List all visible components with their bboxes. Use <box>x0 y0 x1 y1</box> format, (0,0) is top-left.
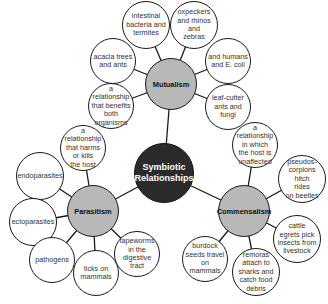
mutualism-example-node: oxpeckers and rhinos and zebras <box>170 1 218 49</box>
mutualism-node: Mutualism <box>145 58 197 110</box>
node-label: ectoparasites <box>12 218 55 226</box>
node-label: remoras attach to sharks and catch food … <box>238 251 273 293</box>
node-label: Commensalism <box>217 207 272 216</box>
parasitism-node: Parasitism <box>67 185 119 237</box>
node-label: Parasitism <box>74 207 111 216</box>
commensalism-example-node: cattle egrets pick insects from livestoc… <box>273 215 321 263</box>
parasitism-example-node: pathogens <box>29 237 75 283</box>
commensalism-node: Commensalism <box>218 185 270 237</box>
node-label: a relationship that benefits both organi… <box>91 85 131 127</box>
node-label: Mutualism <box>153 80 190 89</box>
node-label: endoparasites <box>17 172 62 180</box>
node-label: acacia trees and ants <box>94 53 133 70</box>
node-label: ticks on mammals <box>80 265 111 282</box>
node-label: leaf-cutter ants and fungi <box>208 94 248 119</box>
commensalism-example-node: a relationship in which the host is unaf… <box>232 122 278 168</box>
mutualism-example-node: a relationship that benefits both organi… <box>88 83 134 129</box>
node-label: intestinal bacteria and termites <box>126 12 166 37</box>
mutualism-example-node: and humans and E. coli <box>205 38 251 84</box>
parasitism-example-node: endoparasites <box>16 152 64 200</box>
node-label: pathogens <box>35 256 69 264</box>
node-label: pseudos- corpions hitch rides on beetles <box>281 158 323 200</box>
commensalism-example-node: pseudos- corpions hitch rides on beetles <box>278 155 326 203</box>
parasitism-example-node: ticks on mammals <box>73 250 119 296</box>
node-label: Symbiotic Relationships <box>135 162 194 184</box>
mutualism-example-node: intestinal bacteria and termites <box>122 1 170 49</box>
parasitism-example-node: tapeworms in the digestive tract <box>114 231 160 277</box>
node-label: a relationship that harms or kills the h… <box>63 127 103 169</box>
node-label: and humans and E. coli <box>208 53 248 70</box>
node-label: tapeworms in the digestive tract <box>117 237 157 271</box>
mutualism-example-node: acacia trees and ants <box>90 38 136 84</box>
node-label: cattle egrets pick insects from livestoc… <box>278 222 317 256</box>
node-label: a relationship in which the host is unaf… <box>235 124 275 166</box>
commensalism-example-node: burdock seeds travel on mammals <box>182 236 228 282</box>
node-label: burdock seeds travel on mammals <box>185 242 225 276</box>
parasitism-example-node: a relationship that harms or kills the h… <box>60 125 106 171</box>
central-topic-node: Symbiotic Relationships <box>134 143 194 203</box>
node-label: oxpeckers and rhinos and zebras <box>173 8 215 42</box>
commensalism-example-node: remoras attach to sharks and catch food … <box>232 248 280 296</box>
